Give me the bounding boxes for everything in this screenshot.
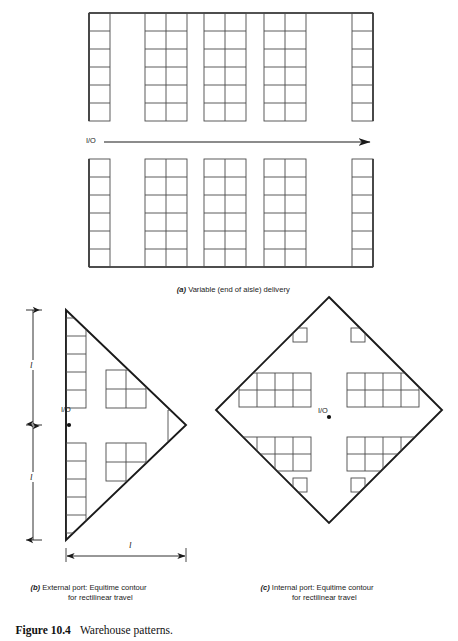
rack-bank-a-bottom-2	[145, 159, 187, 267]
rack-block-c-lower-left	[239, 437, 311, 471]
figure-title: Figure 10.4Warehouse patterns.	[4, 612, 173, 641]
rack-block-c-upper-right	[347, 373, 419, 407]
panel-b-caption-text-2: for rectilinear travel	[22, 593, 232, 604]
rack-block-b-upper-left	[66, 318, 86, 408]
dimension-label-vertical-bottom: l	[28, 472, 35, 482]
io-label-panel-a: I/O	[86, 136, 96, 145]
panel-a-tag: (a)	[177, 285, 186, 294]
figure-svg	[0, 0, 458, 641]
figure-warehouse-patterns: I/O I/O I/O l l l (a) Variable (end of a…	[0, 0, 458, 641]
panel-a-bottom-half	[89, 159, 373, 267]
panel-c-internal-port	[216, 297, 442, 523]
rack-block-b-lower-middle	[106, 443, 146, 481]
rack-bank-a-top-1	[89, 13, 110, 121]
rack-bank-a-top-2	[145, 13, 187, 121]
panel-c-caption-text-2: for rectilinear travel	[252, 593, 452, 604]
panel-a-caption: (a) Variable (end of aisle) delivery	[0, 274, 458, 306]
panel-b-tag: (b)	[30, 583, 40, 592]
rack-block-b-right-vertex	[168, 410, 186, 441]
rack-block-b-upper-middle	[106, 370, 146, 408]
dimension-label-vertical-top: l	[28, 360, 35, 370]
io-label-panel-c: I/O	[318, 406, 328, 415]
panel-c-tag: (c)	[260, 583, 269, 592]
panel-a-top-half	[89, 13, 373, 121]
rack-bank-a-top-5	[352, 13, 373, 121]
panel-c-caption-text: Internal port: Equitime contour	[272, 583, 374, 592]
panel-b-external-port	[26, 310, 186, 562]
rack-block-b-lower-left	[66, 443, 86, 533]
rack-block-c-upper-left	[239, 373, 311, 407]
rack-bank-a-top-3	[204, 13, 246, 121]
io-dot-b	[67, 423, 71, 427]
figure-title-text: Warehouse patterns.	[71, 624, 173, 636]
rack-bank-a-bottom-4	[264, 159, 306, 267]
rack-bank-a-top-4	[264, 13, 306, 121]
rack-bank-a-bottom-3	[204, 159, 246, 267]
figure-number: Figure 10.4	[16, 624, 71, 636]
rack-bank-a-bottom-1	[89, 159, 110, 267]
panel-a-caption-text: Variable (end of aisle) delivery	[188, 285, 290, 294]
io-dot-c	[327, 415, 331, 419]
rack-bank-a-bottom-5	[352, 159, 373, 267]
io-label-panel-b: I/O	[61, 405, 71, 414]
panel-a-variable-delivery	[89, 13, 373, 267]
dimension-label-horizontal: l	[127, 540, 134, 550]
panel-b-caption-text: External port: Equitime contour	[42, 583, 146, 592]
diamond-outline-c	[216, 297, 442, 523]
panel-c-caption: (c) Internal port: Equitime contourfor r…	[252, 572, 452, 625]
rack-block-c-lower-right	[347, 437, 419, 471]
